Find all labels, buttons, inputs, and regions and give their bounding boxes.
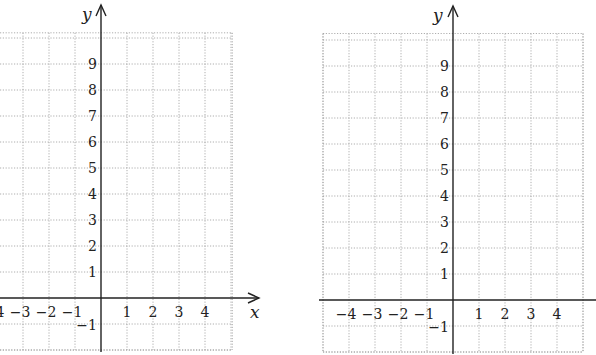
x-tick-label: 4 xyxy=(201,304,210,320)
x-tick-label: 2 xyxy=(501,306,510,322)
x-tick-label: −4 xyxy=(336,306,357,322)
x-tick-label: −2 xyxy=(388,306,409,322)
y-tick-label: 6 xyxy=(88,134,97,150)
y-tick-label: 5 xyxy=(440,162,449,178)
y-tick-label: 4 xyxy=(440,188,449,204)
y-tick-label: 2 xyxy=(440,240,449,256)
coordinate-grid-1: 987654321−1−4−3−2−11234yx xyxy=(0,4,260,352)
y-tick-label: 3 xyxy=(88,212,97,228)
y-tick-label: 7 xyxy=(440,110,449,126)
y-tick-label: 3 xyxy=(440,214,449,230)
y-tick-label: 7 xyxy=(88,108,97,124)
y-axis-label: y xyxy=(432,5,443,25)
y-tick-label: 4 xyxy=(88,186,97,202)
x-tick-label: −1 xyxy=(414,306,435,322)
x-tick-label: −3 xyxy=(10,304,31,320)
x-axis-label: x xyxy=(250,302,260,322)
y-tick-label: 8 xyxy=(88,82,97,98)
y-tick-label: 2 xyxy=(88,238,97,254)
y-tick-label: 1 xyxy=(440,266,449,282)
x-tick-label: 1 xyxy=(475,306,484,322)
x-tick-label: −4 xyxy=(0,304,4,320)
x-tick-label: −3 xyxy=(362,306,383,322)
x-tick-label: 3 xyxy=(175,304,184,320)
coordinate-grid-2: 987654321−1−4−3−2−11234y xyxy=(319,5,596,354)
y-tick-label: 9 xyxy=(440,58,449,74)
y-axis-label: y xyxy=(81,4,92,24)
y-tick-label: 5 xyxy=(88,160,97,176)
y-tick-label: 1 xyxy=(88,264,97,280)
coordinate-grids: 987654321−1−4−3−2−11234yx987654321−1−4−3… xyxy=(0,0,596,355)
x-tick-label: 1 xyxy=(123,304,132,320)
x-tick-label: 3 xyxy=(527,306,536,322)
x-tick-label: 4 xyxy=(553,306,562,322)
y-tick-label: 9 xyxy=(88,56,97,72)
y-tick-label: 6 xyxy=(440,136,449,152)
x-tick-label: −1 xyxy=(62,304,83,320)
x-tick-label: −2 xyxy=(36,304,57,320)
y-tick-label: 8 xyxy=(440,84,449,100)
x-tick-label: 2 xyxy=(149,304,158,320)
